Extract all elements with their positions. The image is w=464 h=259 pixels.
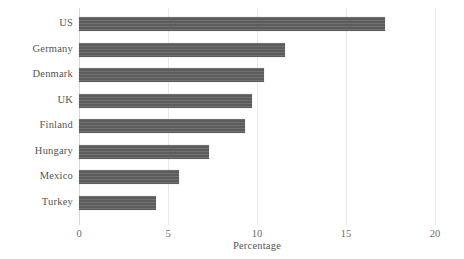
bar[interactable] [79,17,385,31]
x-tick-label-10: 10 [237,228,277,239]
bar[interactable] [79,43,285,57]
x-tick-label-20: 20 [415,228,455,239]
x-tick-label-5: 5 [148,228,188,239]
bar-row[interactable] [79,196,435,210]
category-label-denmark: Denmark [0,68,73,79]
gridline-0 [79,8,80,225]
category-label-uk: UK [0,94,73,105]
bar-row[interactable] [79,68,435,82]
gridline-5 [168,8,169,225]
bar-row[interactable] [79,145,435,159]
gridline-20 [435,8,436,225]
x-tick-label-15: 15 [326,228,366,239]
category-label-hungary: Hungary [0,145,73,156]
bar[interactable] [79,196,156,210]
bar[interactable] [79,68,264,82]
category-axis-labels: USGermanyDenmarkUKFinlandHungaryMexicoTu… [0,0,73,259]
category-label-turkey: Turkey [0,196,73,207]
bar[interactable] [79,145,209,159]
category-label-finland: Finland [0,119,73,130]
bar[interactable] [79,94,252,108]
category-label-mexico: Mexico [0,170,73,181]
x-axis-title: Percentage [79,240,435,251]
x-tick-label-0: 0 [59,228,99,239]
bar[interactable] [79,170,179,184]
horizontal-bar-chart: USGermanyDenmarkUKFinlandHungaryMexicoTu… [0,0,464,259]
bar-row[interactable] [79,43,435,57]
bar-row[interactable] [79,170,435,184]
plot-area [79,8,435,225]
gridline-10 [257,8,258,225]
category-label-germany: Germany [0,43,73,54]
bar-row[interactable] [79,119,435,133]
gridline-15 [346,8,347,225]
bar-row[interactable] [79,94,435,108]
category-label-us: US [0,17,73,28]
bar-row[interactable] [79,17,435,31]
bar[interactable] [79,119,245,133]
